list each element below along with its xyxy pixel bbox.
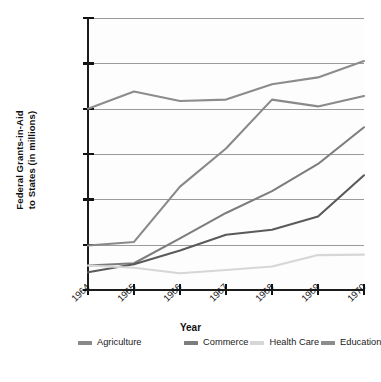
legend-swatch-icon (250, 341, 264, 345)
legend-swatch-icon (78, 341, 92, 345)
series-line (88, 96, 364, 246)
legend-label: Commerce (203, 337, 248, 349)
legend-swatch-icon (184, 341, 198, 345)
x-axis-title: Year (0, 322, 381, 333)
series-line (88, 61, 364, 109)
legend-label: Education (340, 337, 381, 349)
legend-swatch-icon (321, 341, 335, 345)
line-chart: Federal Grants-in-Aid to States (in mill… (0, 0, 381, 382)
series-line (88, 175, 364, 272)
legend-label: Health Care (269, 337, 319, 349)
legend-label: Agriculture (97, 337, 141, 349)
legend-item[interactable]: Agriculture (78, 337, 182, 349)
y-axis-title: Federal Grants-in-Aid to States (in mill… (14, 60, 38, 260)
plot-area: 0100020003000400050006000 (88, 18, 364, 290)
series-lines (88, 18, 364, 290)
chart-legend: AgricultureCommerceHealth CareEducationC… (78, 337, 381, 349)
legend-item[interactable]: Health Care (250, 337, 319, 349)
legend-item[interactable]: Commerce (184, 337, 248, 349)
legend-item[interactable]: Education (321, 337, 381, 349)
